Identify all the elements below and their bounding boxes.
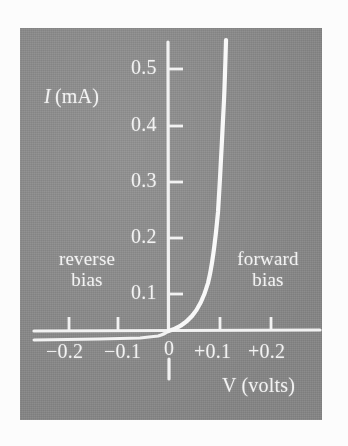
y-axis-title-symbol: I [44,85,51,107]
reverse-bias-annotation-line2: bias [37,270,137,291]
x-tick-label-pos0.2: +0.2 [248,341,285,363]
forward-bias-annotation-line2: bias [218,270,318,291]
y-tick-label-0.5: 0.5 [131,57,157,79]
forward-bias-annotation-line1: forward [218,249,318,270]
y-axis-title: I(mA) [44,86,99,108]
x-axis-line [34,330,320,331]
plot-svg [0,0,348,446]
x-tick-label-pos0.1: +0.1 [194,341,231,363]
reverse-bias-annotation: reverse bias [37,249,137,290]
reverse-bias-annotation-line1: reverse [37,249,137,270]
y-axis-line [168,42,169,331]
y-axis-title-unit: (mA) [55,85,99,107]
x-axis-title: V (volts) [222,375,295,397]
y-tick-label-0.2: 0.2 [131,226,157,248]
plot-vector-layer [0,0,348,446]
x-tick-label-neg0.2: −0.2 [46,341,83,363]
y-tick-label-0.4: 0.4 [131,114,157,136]
forward-bias-annotation: forward bias [218,249,318,290]
x-tick-label-neg0.1: −0.1 [104,341,141,363]
diode-iv-figure: 0.5 0.4 0.3 0.2 0.1 −0.2 −0.1 0 +0.1 +0.… [0,0,348,446]
y-tick-label-0.3: 0.3 [131,170,157,192]
x-tick-label-zero: 0 [164,338,174,360]
